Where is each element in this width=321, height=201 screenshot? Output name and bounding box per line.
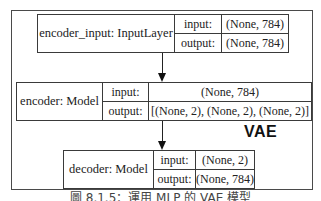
output-label: output: [175,34,221,52]
output-label: output: [154,170,195,188]
input-label: input: [154,151,195,170]
input-shape: (None, 2) [196,151,254,170]
node-encoder-input: encoder_input: InputLayer input: output:… [37,14,289,53]
node-decoder: decoder: Model input: output: (None, 2) … [63,150,255,189]
input-label: input: [103,83,148,102]
output-shape: (None, 784) [196,170,254,188]
node-title: decoder: Model [64,151,154,188]
edge-line [162,53,163,74]
output-shape: (None, 784) [222,34,288,52]
input-shape: (None, 784) [222,15,288,34]
output-label: output: [103,102,148,120]
input-label: input: [175,15,221,34]
node-title: encoder: Model [17,83,103,120]
group-label: VAE [244,123,277,141]
arrow-down-icon [158,73,166,82]
figure-caption: 圖 8.1.5：運用 MLP 的 VAE 模型 [0,191,321,201]
output-shape: [(None, 2), (None, 2), (None, 2)] [149,102,311,120]
node-encoder: encoder: Model input: output: (None, 784… [16,82,312,121]
input-shape: (None, 784) [149,83,311,102]
edge-line [162,121,163,142]
arrow-down-icon [158,141,166,150]
node-title: encoder_input: InputLayer [38,15,175,52]
